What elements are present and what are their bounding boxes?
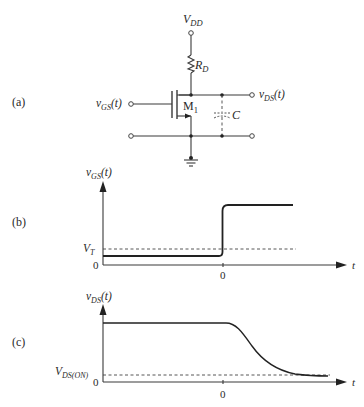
capacitor-label: C: [232, 108, 241, 122]
vdd-label: VDD: [183, 12, 203, 28]
m1-label: M1: [183, 99, 198, 115]
cap-bottom-node: [220, 134, 224, 138]
vgs-waveform: [103, 205, 293, 256]
output-ground-terminal: [250, 134, 255, 139]
circuit-schematic: (a) VDD RD vDS(t) vGS(t) M1 C: [12, 12, 285, 166]
vdd-terminal: [189, 31, 194, 36]
y0-label: 0: [93, 259, 99, 271]
vds-waveform-chart: (c) vDS(t) t 0 0 VDS(ON): [12, 290, 356, 400]
x-axis-label: t: [352, 376, 356, 388]
panel-label-c: (c): [12, 335, 25, 349]
x-axis-label: t: [352, 259, 356, 271]
vds-terminal: [250, 93, 255, 98]
y-axis-arrow-icon: [100, 304, 107, 315]
mosfet-switching-figure: (a) VDD RD vDS(t) vGS(t) M1 C: [0, 0, 364, 407]
rd-label: RD: [194, 58, 209, 74]
y-axis-arrow-icon: [100, 181, 107, 192]
vgs-input-label: vGS(t): [96, 97, 122, 112]
source-arrow-icon: [185, 114, 191, 119]
resistor-rd: [188, 55, 194, 73]
panel-label-a: (a): [12, 95, 25, 109]
vds-waveform: [103, 323, 328, 376]
source-node: [189, 134, 193, 138]
y0-label: 0: [93, 376, 99, 388]
vgs-terminal: [129, 102, 134, 107]
t0-label: 0: [220, 269, 226, 281]
vds-axis-label: vDS(t): [86, 290, 112, 305]
vt-label: VT: [83, 242, 95, 257]
vds-output-label: vDS(t): [259, 88, 285, 103]
x-axis-arrow-icon: [336, 379, 347, 386]
panel-label-b: (b): [12, 215, 26, 229]
t0-label: 0: [220, 388, 226, 400]
ground-icon: [184, 156, 198, 166]
x-axis-arrow-icon: [336, 262, 347, 269]
input-ground-terminal: [129, 134, 134, 139]
vgs-axis-label: vGS(t): [86, 166, 112, 181]
vds-on-label: VDS(ON): [55, 365, 89, 380]
vgs-waveform-chart: (b) vGS(t) t 0 0 VT: [12, 166, 356, 281]
